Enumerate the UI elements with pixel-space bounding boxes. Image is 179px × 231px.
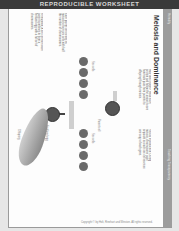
parent-cell-label: Parent cell bbox=[97, 119, 100, 131]
sex-cell bbox=[79, 68, 88, 77]
sex-cells-label-2: Sex cells bbox=[91, 133, 94, 143]
sex-cell bbox=[79, 162, 88, 171]
copyright-text: Copyright © by Holt, Rinehart and Winsto… bbox=[81, 221, 153, 224]
parent-cell bbox=[105, 101, 120, 116]
sex-cell bbox=[79, 57, 88, 66]
sex-cell bbox=[79, 129, 88, 138]
header-banner: REPRODUCIBLE WORKSHEET bbox=[0, 0, 179, 9]
sex-cell bbox=[79, 151, 88, 160]
sex-cell bbox=[79, 140, 88, 149]
sidebar-strip: Heredity Teaching Transparency bbox=[163, 9, 172, 227]
intro-paragraph-right: Sexual reproduction: During meiosis, chr… bbox=[137, 129, 151, 171]
sex-cell bbox=[79, 90, 88, 99]
section-label: Heredity bbox=[164, 13, 171, 24]
meiosis-arrow bbox=[113, 91, 117, 101]
sex-cell bbox=[79, 79, 88, 88]
page-title: Meiosis and Dominance bbox=[153, 15, 160, 95]
offspring-label: Offspring bbox=[17, 129, 20, 139]
sidebar-label: Teaching Transparency bbox=[164, 149, 171, 180]
intro-paragraph-left: How does it work? Read each section and … bbox=[137, 69, 151, 111]
sex-cells-label: Sex cells bbox=[91, 61, 94, 71]
worksheet-page: Heredity Teaching Transparency Meiosis a… bbox=[8, 9, 172, 228]
step-b-paragraph: Fertilization: A sex cell from each pare… bbox=[27, 13, 43, 53]
step-a-paragraph: Each parent cell divides by meiosis to f… bbox=[51, 13, 67, 53]
fertilization-box bbox=[69, 101, 74, 129]
